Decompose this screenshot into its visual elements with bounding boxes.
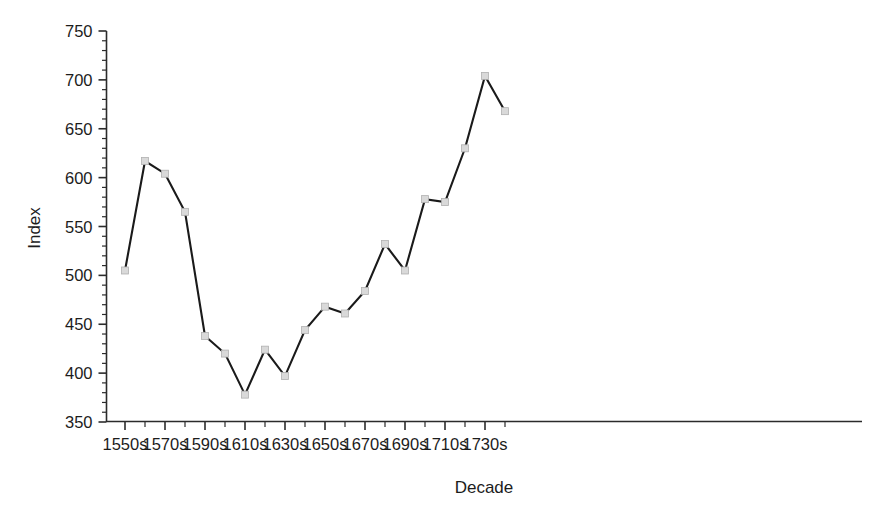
x-axis-tick-label: 1730s <box>463 435 508 453</box>
y-axis-tick-label: 400 <box>65 364 93 382</box>
x-axis-tick-label: 1630s <box>263 435 308 453</box>
data-point-marker <box>402 267 409 274</box>
data-point-marker <box>122 267 129 274</box>
data-point-marker <box>262 346 269 353</box>
x-axis-tick-label: 1590s <box>183 435 228 453</box>
data-point-marker <box>362 288 369 295</box>
y-axis-tick-label: 650 <box>65 120 93 138</box>
data-point-marker <box>302 327 309 334</box>
y-axis-tick-label: 500 <box>65 266 93 284</box>
x-axis-tick-label: 1710s <box>423 435 468 453</box>
y-axis-title: Index <box>25 207 44 249</box>
x-axis-tick-label: 1670s <box>343 435 388 453</box>
y-axis-tick-label: 750 <box>65 22 93 40</box>
x-axis-title: Decade <box>455 478 514 497</box>
y-axis-tick-label: 450 <box>65 315 93 333</box>
x-axis-tick-labels: 1550s1570s1590s1610s1630s1650s1670s1690s… <box>103 435 508 453</box>
y-axis-tick-labels: 350400450500550600650700750 <box>65 22 93 431</box>
data-point-marker <box>382 241 389 248</box>
chart-figure: 350400450500550600650700750 Index 1550s1… <box>0 0 878 522</box>
data-point-marker <box>242 391 249 398</box>
data-point-marker <box>462 145 469 152</box>
y-axis-tick-label: 350 <box>65 413 93 431</box>
data-point-marker <box>442 199 449 206</box>
data-point-marker <box>422 196 429 203</box>
x-axis-tick-label: 1690s <box>383 435 428 453</box>
data-point-marker <box>142 158 149 165</box>
x-axis-tick-label: 1550s <box>103 435 148 453</box>
data-point-marker <box>182 208 189 215</box>
data-point-marker <box>202 332 209 339</box>
data-point-marker <box>222 350 229 357</box>
x-axis-tick-label: 1650s <box>303 435 348 453</box>
line-chart-canvas: 350400450500550600650700750 Index 1550s1… <box>0 0 878 522</box>
y-axis-tick-label: 600 <box>65 169 93 187</box>
data-point-marker <box>282 373 289 380</box>
data-point-marker <box>322 303 329 310</box>
x-axis-tick-label: 1610s <box>223 435 268 453</box>
y-axis-tick-label: 550 <box>65 218 93 236</box>
data-point-marker <box>342 310 349 317</box>
data-point-marker <box>502 108 509 115</box>
data-point-marker <box>482 72 489 79</box>
y-axis-tick-label: 700 <box>65 71 93 89</box>
x-axis-tick-label: 1570s <box>143 435 188 453</box>
data-point-marker <box>162 170 169 177</box>
